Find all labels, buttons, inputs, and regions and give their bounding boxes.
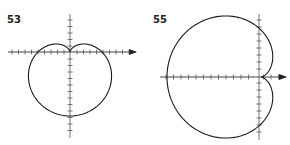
- graph-53: [8, 14, 136, 138]
- graph-55: [160, 14, 286, 140]
- polar-graphs: [0, 0, 290, 145]
